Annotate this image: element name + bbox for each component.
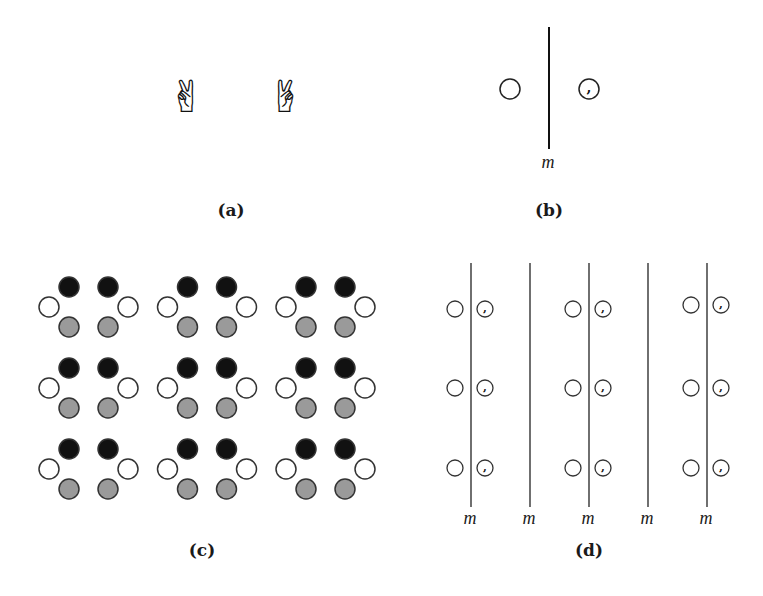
panel-a: ✌ ✌ (a) [169, 71, 303, 220]
comma-mark: , [483, 302, 487, 315]
black-circle [296, 358, 316, 378]
black-circle [335, 358, 355, 378]
motif-pair: , [683, 297, 729, 313]
black-circle [335, 439, 355, 459]
comma-mark: , [719, 461, 723, 474]
black-circle [98, 358, 118, 378]
gray-circle [217, 479, 237, 499]
plain-circle [447, 380, 463, 396]
comma-mark: , [719, 298, 723, 311]
open-circle [355, 378, 375, 398]
open-circle [237, 459, 257, 479]
open-circle [118, 459, 138, 479]
mirror-label: m [641, 508, 654, 528]
comma-mark: , [601, 461, 605, 474]
black-circle [98, 439, 118, 459]
open-circle [39, 459, 59, 479]
caption-c: (c) [189, 540, 215, 560]
motif-pair: , [447, 380, 493, 396]
black-circle [178, 358, 198, 378]
open-circle [118, 297, 138, 317]
open-circle [355, 459, 375, 479]
plain-circle [683, 460, 699, 476]
gray-circle [178, 479, 198, 499]
gray-circle [98, 317, 118, 337]
black-circle [59, 277, 79, 297]
open-circle [158, 459, 178, 479]
plain-circle [447, 301, 463, 317]
black-circle [296, 439, 316, 459]
black-circle [59, 439, 79, 459]
motif-group [276, 277, 375, 337]
mirror-label: m [542, 152, 555, 172]
gray-circle [59, 479, 79, 499]
black-circle [217, 358, 237, 378]
gray-circle [296, 398, 316, 418]
gray-circle [98, 398, 118, 418]
motif-pair: , [447, 301, 493, 317]
motif-pair: , [565, 301, 611, 317]
motif-group [158, 439, 257, 499]
motif-pair: , [683, 460, 729, 476]
comma-mark: , [483, 461, 487, 474]
comma-mark: , [587, 79, 592, 95]
gray-circle [217, 398, 237, 418]
plain-circle [565, 460, 581, 476]
caption-b: (b) [535, 200, 563, 220]
plain-circle [683, 380, 699, 396]
victory-hand-left-icon: ✌ [169, 71, 206, 122]
motif-group [158, 358, 257, 418]
motif-group [158, 277, 257, 337]
mirror-label: m [523, 508, 536, 528]
plain-circle [683, 297, 699, 313]
gray-circle [178, 317, 198, 337]
black-circle [217, 277, 237, 297]
gray-circle [296, 317, 316, 337]
motif-pair: , [683, 380, 729, 396]
gray-circle [296, 479, 316, 499]
gray-circle [335, 317, 355, 337]
black-circle [98, 277, 118, 297]
gray-circle [217, 317, 237, 337]
open-circle [158, 378, 178, 398]
plain-circle [565, 301, 581, 317]
black-circle [178, 439, 198, 459]
plain-circle [500, 79, 520, 99]
panel-c: (c) [39, 277, 375, 560]
black-circle [335, 277, 355, 297]
plain-circle [565, 380, 581, 396]
black-circle [178, 277, 198, 297]
motif-group [39, 358, 138, 418]
mirror-label: m [582, 508, 595, 528]
motif-group [39, 439, 138, 499]
panel-d: (d) mmmmm,,,,,,,,, [447, 263, 729, 560]
plain-circle [447, 460, 463, 476]
open-circle [158, 297, 178, 317]
mirror-label: m [464, 508, 477, 528]
comma-mark: , [601, 302, 605, 315]
motif-group [39, 277, 138, 337]
open-circle [39, 378, 59, 398]
motif-pair: , [565, 460, 611, 476]
open-circle [276, 459, 296, 479]
black-circle [59, 358, 79, 378]
motif-group [276, 439, 375, 499]
gray-circle [98, 479, 118, 499]
motif-group [276, 358, 375, 418]
comma-mark: , [719, 381, 723, 394]
symmetry-figure: ✌ ✌ (a) , m (b) (c) (d) mmmmm,,,,,,,,, [0, 0, 763, 596]
gray-circle [335, 398, 355, 418]
motif-pair: , [565, 380, 611, 396]
gray-circle [178, 398, 198, 418]
open-circle [118, 378, 138, 398]
mirror-label: m [700, 508, 713, 528]
caption-a: (a) [217, 200, 244, 220]
gray-circle [335, 479, 355, 499]
open-circle [39, 297, 59, 317]
black-circle [217, 439, 237, 459]
victory-hand-right-icon: ✌ [266, 71, 303, 122]
open-circle [276, 297, 296, 317]
panel-b: , m (b) [500, 27, 599, 220]
open-circle [237, 297, 257, 317]
comma-mark: , [483, 381, 487, 394]
